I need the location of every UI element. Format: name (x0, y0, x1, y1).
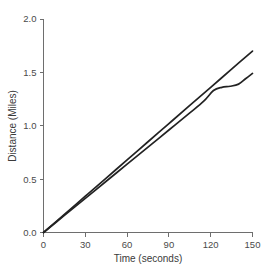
plot-background (0, 0, 271, 275)
x-tick-label: 150 (245, 239, 261, 250)
clipped-caption-text (0, 270, 271, 275)
chart-container: 0.00.51.01.52.0 0306090120150 Time (seco… (0, 0, 271, 275)
distance-vs-time-line-chart: 0.00.51.01.52.0 0306090120150 Time (seco… (0, 0, 271, 275)
y-tick-label: 1.0 (23, 120, 36, 131)
x-tick-label: 30 (80, 239, 91, 250)
y-axis-title: Distance (Miles) (7, 90, 18, 162)
y-tick-label: 2.0 (23, 13, 36, 24)
x-axis-title: Time (seconds) (114, 253, 183, 264)
y-tick-label: 0.5 (23, 174, 36, 185)
x-tick-label: 0 (41, 239, 46, 250)
x-tick-label: 120 (203, 239, 219, 250)
y-tick-label: 1.5 (23, 67, 36, 78)
x-tick-label: 60 (122, 239, 133, 250)
x-tick-label: 90 (164, 239, 175, 250)
y-tick-label: 0.0 (23, 227, 36, 238)
